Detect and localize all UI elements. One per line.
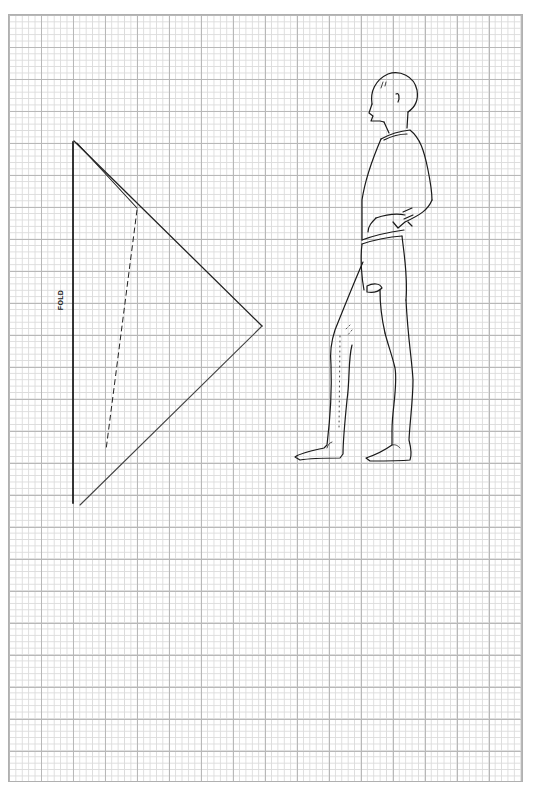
figure-trousers (361, 236, 406, 300)
upper-inner-edge (77, 143, 137, 208)
fashion-figure (295, 73, 432, 461)
pattern-drawing: FOLD (0, 0, 534, 793)
fold-label: FOLD (57, 290, 64, 310)
inner-dashed-line (106, 210, 137, 450)
lower-outer-edge (80, 326, 262, 505)
figure-face (369, 104, 384, 122)
upper-outer-edge (74, 141, 262, 326)
figure-head (372, 73, 418, 112)
figure-torso (381, 130, 432, 200)
triangle-pattern-piece (73, 141, 262, 505)
figure-arm (376, 200, 432, 228)
figure-ear (396, 94, 399, 102)
figure-back-leg (295, 262, 363, 460)
figure-neck (384, 112, 408, 133)
figure-front-leg (366, 300, 413, 461)
graph-paper-sheet: FOLD (0, 0, 534, 793)
